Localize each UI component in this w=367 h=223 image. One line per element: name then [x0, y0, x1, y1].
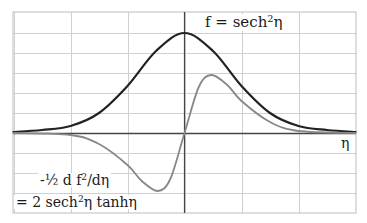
x-axis-label: η: [341, 136, 349, 150]
f-curve-label: f = sech2η: [203, 14, 285, 31]
derivative-label-line1: -½ d f2/dη: [38, 173, 111, 187]
derivative-label-line2: = 2 sech2η tanhη: [14, 195, 139, 209]
chart-canvas: [0, 0, 367, 223]
